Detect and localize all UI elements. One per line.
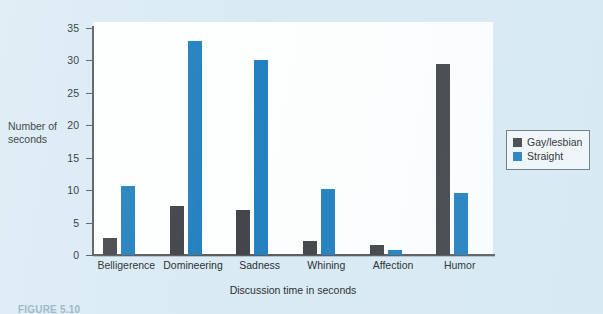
legend-swatch-gay-lesbian bbox=[513, 138, 522, 147]
x-label-humor: Humor bbox=[420, 259, 500, 271]
legend-label-straight: Straight bbox=[527, 150, 563, 163]
figure-caption: FIGURE 5.10 bbox=[18, 304, 80, 314]
bar-humor-gay-lesbian bbox=[436, 64, 450, 255]
bar-humor-straight bbox=[454, 193, 468, 255]
y-tick-label: 15 bbox=[57, 153, 79, 164]
y-tick-mark bbox=[86, 158, 93, 159]
bar-group bbox=[360, 22, 427, 255]
y-tick-mark bbox=[86, 125, 93, 126]
y-tick-mark bbox=[86, 223, 93, 224]
y-tick-label: 10 bbox=[57, 185, 79, 196]
y-tick-label: 0 bbox=[57, 250, 79, 261]
bar-belligerence-straight bbox=[121, 186, 135, 255]
bar-belligerence-gay-lesbian bbox=[103, 238, 117, 255]
legend-item-straight: Straight bbox=[513, 150, 582, 163]
legend-label-gay-lesbian: Gay/lesbian bbox=[527, 136, 582, 149]
y-axis-title-line-2: seconds bbox=[8, 133, 86, 146]
y-tick-label: 25 bbox=[57, 88, 79, 99]
y-axis-title-line-1: Number of bbox=[8, 120, 86, 133]
legend-item-gay-lesbian: Gay/lesbian bbox=[513, 136, 582, 149]
bar-affection-straight bbox=[388, 250, 402, 255]
chart-legend: Gay/lesbian Straight bbox=[506, 130, 590, 170]
bar-domineering-gay-lesbian bbox=[170, 206, 184, 255]
y-tick-mark bbox=[86, 93, 93, 94]
bars-layer bbox=[93, 22, 493, 255]
y-tick-mark bbox=[86, 60, 93, 61]
y-tick-label: 30 bbox=[57, 55, 79, 66]
bar-whining-gay-lesbian bbox=[303, 241, 317, 255]
y-tick-label: 35 bbox=[57, 23, 79, 34]
y-tick-mark bbox=[86, 255, 93, 256]
bar-group bbox=[293, 22, 360, 255]
bar-group bbox=[93, 22, 160, 255]
x-axis-title: Discussion time in seconds bbox=[93, 284, 493, 296]
bar-domineering-straight bbox=[188, 41, 202, 255]
bar-group bbox=[426, 22, 493, 255]
y-tick-mark bbox=[86, 28, 93, 29]
bar-sadness-straight bbox=[254, 60, 268, 255]
y-tick-mark bbox=[86, 190, 93, 191]
y-axis-title: Number of seconds bbox=[8, 120, 86, 146]
figure-page: 05101520253035 Number of seconds Bellige… bbox=[0, 0, 603, 314]
bar-group bbox=[226, 22, 293, 255]
bar-whining-straight bbox=[321, 189, 335, 255]
bar-group bbox=[160, 22, 227, 255]
bar-affection-gay-lesbian bbox=[370, 245, 384, 255]
y-tick-label: 5 bbox=[57, 218, 79, 229]
bar-sadness-gay-lesbian bbox=[236, 210, 250, 255]
legend-swatch-straight bbox=[513, 152, 522, 161]
